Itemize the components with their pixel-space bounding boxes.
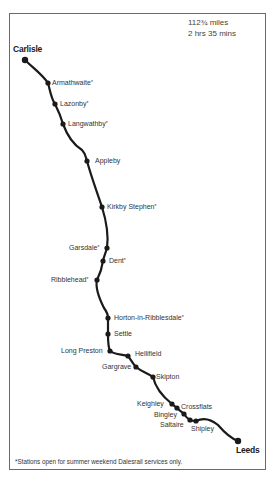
dalesrail-asterisk: *: [86, 100, 88, 106]
station-dot-icon: [100, 258, 105, 263]
station-markers: [22, 57, 241, 444]
station-name: Crossflats: [181, 403, 212, 410]
station-name: Garsdale: [69, 244, 97, 251]
route-map: [0, 0, 272, 484]
dalesrail-asterisk: *: [97, 244, 99, 250]
station-name: Shipley: [191, 425, 214, 432]
station-dot-icon: [150, 374, 155, 379]
station-label: Shipley: [191, 425, 214, 433]
dalesrail-asterisk: *: [154, 203, 156, 209]
station-label: Carlisle: [13, 45, 42, 53]
dalesrail-asterisk: *: [106, 120, 108, 126]
station-dot-icon: [60, 121, 65, 126]
station-dot-icon: [193, 418, 198, 423]
station-label: Hellifield: [135, 350, 161, 358]
station-name: Armathwaite: [52, 79, 91, 86]
dalesrail-asterisk: *: [91, 79, 93, 85]
station-name: Hellifield: [135, 350, 161, 357]
dalesrail-asterisk: *: [86, 276, 88, 282]
station-name: Saltaire: [160, 421, 184, 428]
station-label: Skipton: [156, 373, 179, 381]
station-name: Ribblehead: [51, 276, 86, 283]
station-dot-icon: [22, 57, 28, 63]
station-dot-icon: [99, 204, 104, 209]
station-label: Saltaire: [160, 421, 184, 429]
station-dot-icon: [181, 411, 186, 416]
station-label: Kirkby Stephen*: [107, 203, 156, 211]
station-dot-icon: [104, 245, 109, 250]
station-dot-icon: [133, 364, 138, 369]
station-dot-icon: [94, 277, 99, 282]
station-name: Lazonby: [60, 100, 86, 107]
station-name: Skipton: [156, 373, 179, 380]
station-dot-icon: [105, 331, 110, 336]
station-label: Langwathby*: [68, 120, 108, 128]
station-name: Langwathby: [68, 120, 106, 127]
station-dot-icon: [52, 101, 57, 106]
station-label: Horton-in-Ribblesdale*: [114, 314, 184, 322]
station-dot-icon: [84, 158, 89, 163]
station-name: Leeds: [236, 445, 260, 455]
station-name: Horton-in-Ribblesdale: [114, 314, 182, 321]
station-dot-icon: [169, 401, 174, 406]
station-dot-icon: [125, 353, 130, 358]
station-dot-icon: [187, 417, 192, 422]
station-label: Long Preston: [61, 347, 103, 355]
station-dot-icon: [235, 438, 241, 444]
station-name: Kirkby Stephen: [107, 203, 154, 210]
station-label: Armathwaite*: [52, 79, 93, 87]
station-label: Garsdale*: [69, 244, 99, 252]
station-label: Bingley: [154, 411, 177, 419]
station-name: Settle: [114, 330, 132, 337]
station-label: Dent*: [109, 257, 126, 265]
station-dot-icon: [105, 315, 110, 320]
station-label: Crossflats: [181, 403, 212, 411]
station-name: Appleby: [95, 157, 120, 164]
station-name: Gargrave: [102, 363, 131, 370]
station-dot-icon: [107, 348, 112, 353]
dalesrail-asterisk: *: [124, 257, 126, 263]
railway-line: [25, 60, 238, 441]
station-name: Keighley: [137, 400, 164, 407]
station-label: Ribblehead*: [51, 276, 88, 284]
station-name: Dent: [109, 257, 124, 264]
dalesrail-asterisk: *: [182, 314, 184, 320]
station-name: Long Preston: [61, 347, 103, 354]
footnote: *Stations open for summer weekend Dalesr…: [15, 458, 182, 465]
station-dot-icon: [45, 80, 50, 85]
station-label: Appleby: [95, 157, 120, 165]
station-label: Lazonby*: [60, 100, 88, 108]
station-name: Carlisle: [13, 44, 42, 54]
station-label: Gargrave: [102, 363, 131, 371]
station-dot-icon: [174, 405, 179, 410]
station-label: Leeds: [236, 446, 260, 454]
station-name: Bingley: [154, 411, 177, 418]
station-label: Settle: [114, 330, 132, 338]
station-label: Keighley: [137, 400, 164, 408]
